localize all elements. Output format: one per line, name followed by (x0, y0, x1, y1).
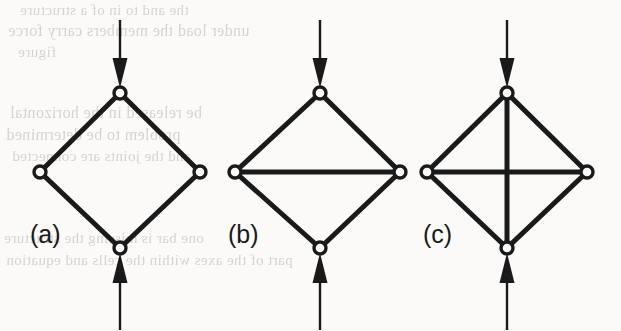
panel-label-b: (b) (228, 222, 259, 247)
panel-label-a: (a) (30, 222, 61, 247)
truss-joint-hole-left (37, 169, 42, 174)
arrow-head-icon (113, 58, 128, 88)
truss-member-top-left (235, 93, 320, 172)
truss-joint-hole-top (317, 90, 322, 95)
truss-joint-hole-right (397, 169, 402, 174)
truss-diagram-svg (0, 0, 621, 331)
truss-joint-hole-bottom (117, 245, 122, 250)
arrow-head-icon (113, 253, 128, 283)
load-arrow-down-c (500, 20, 515, 88)
truss-panel-c (421, 20, 593, 330)
truss-member-top-left (40, 93, 120, 172)
truss-member-right-bottom (507, 172, 587, 248)
arrow-head-icon (313, 253, 328, 283)
truss-joint-hole-top (117, 90, 122, 95)
truss-joint-hole-left (424, 169, 429, 174)
arrow-head-icon (313, 58, 328, 88)
load-arrow-up-c (500, 253, 515, 330)
truss-member-top-right (320, 93, 400, 172)
truss-joint-hole-bottom (317, 245, 322, 250)
load-arrow-down-a (113, 20, 128, 88)
truss-member-top-right (120, 93, 200, 172)
load-arrow-up-b (313, 253, 328, 330)
load-arrow-up-a (113, 253, 128, 330)
truss-joint-hole-right (197, 169, 202, 174)
truss-joint-hole-bottom (504, 245, 509, 250)
truss-member-top-right (507, 93, 587, 172)
truss-joint-hole-top (504, 90, 509, 95)
truss-joint-hole-left (232, 169, 237, 174)
truss-panel-b (229, 20, 406, 330)
figure-canvas: the and to in of a structureunder load t… (0, 0, 621, 331)
truss-member-top-left (427, 93, 507, 172)
truss-member-right-bottom (120, 172, 200, 248)
arrow-head-icon (500, 253, 515, 283)
load-arrow-down-b (313, 20, 328, 88)
panel-label-c: (c) (423, 222, 452, 247)
truss-member-right-bottom (320, 172, 400, 248)
truss-joint-hole-right (584, 169, 589, 174)
arrow-head-icon (500, 58, 515, 88)
truss-panel-a (34, 20, 206, 330)
